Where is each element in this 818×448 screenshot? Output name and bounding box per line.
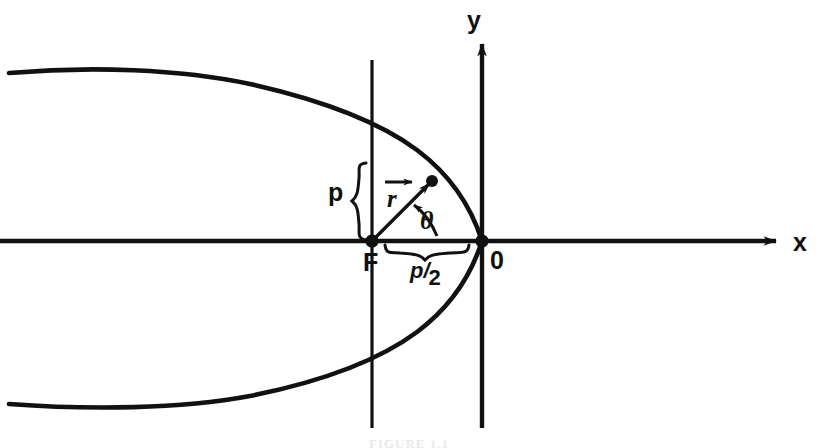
curve-point-marker <box>426 175 438 187</box>
parabola-figure <box>0 0 818 448</box>
x-axis-label: x <box>793 228 807 257</box>
focal-distance-denominator: 2 <box>429 265 441 290</box>
focal-distance-label: p/2 <box>410 258 442 284</box>
radius-vector-label: r <box>387 185 397 213</box>
parabola-upper-branch <box>9 69 482 241</box>
polar-angle-label: θ <box>420 206 434 236</box>
y-axis-label: y <box>467 6 481 35</box>
semi-latus-label: p <box>328 178 343 207</box>
semi-latus-brace <box>352 163 366 240</box>
focal-distance-numerator: p <box>410 258 423 283</box>
origin-point-marker <box>475 234 488 247</box>
origin-label: 0 <box>490 246 504 275</box>
figure-caption: FIGURE 1.1 <box>0 436 818 448</box>
focus-point-marker <box>365 234 378 247</box>
focus-label: F <box>363 248 378 277</box>
